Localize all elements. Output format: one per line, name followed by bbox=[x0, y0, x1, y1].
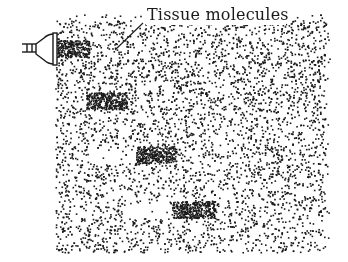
diagram-overlay bbox=[0, 0, 348, 262]
transducer-icon bbox=[22, 33, 57, 65]
label-leader-line bbox=[115, 23, 143, 50]
ultrasound-pulse-diagram: Tissue molecules bbox=[0, 0, 348, 262]
tissue-molecules-label: Tissue molecules bbox=[147, 5, 289, 24]
